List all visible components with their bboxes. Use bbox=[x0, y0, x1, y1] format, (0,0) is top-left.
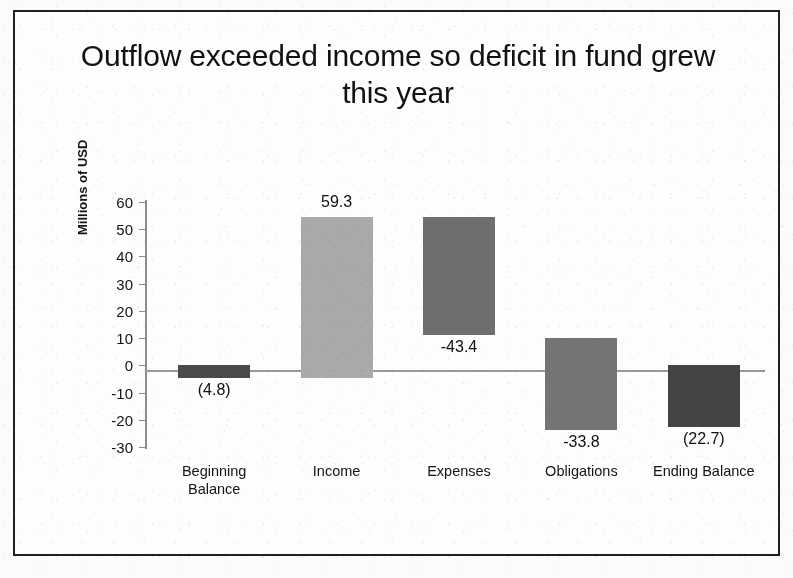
y-tick-label: -30 bbox=[91, 439, 133, 456]
y-tick-label: -10 bbox=[91, 384, 133, 401]
y-tick-label: 60 bbox=[91, 194, 133, 211]
y-tick-label: 20 bbox=[91, 302, 133, 319]
bar-value-label: (22.7) bbox=[683, 430, 725, 448]
y-tick-label: 50 bbox=[91, 221, 133, 238]
y-axis-line bbox=[145, 200, 147, 449]
y-tick-label: 10 bbox=[91, 330, 133, 347]
bar-value-label: -33.8 bbox=[563, 433, 599, 451]
y-tick-label: 30 bbox=[91, 275, 133, 292]
x-category-label: Ending Balance bbox=[626, 462, 782, 480]
bar-expenses[interactable] bbox=[423, 217, 495, 335]
bar-value-label: 59.3 bbox=[321, 193, 352, 211]
y-tick-label: 40 bbox=[91, 248, 133, 265]
chart-area: Outflow exceeded income so deficit in fu… bbox=[13, 10, 780, 556]
bar-obligations[interactable] bbox=[545, 338, 617, 430]
bar-value-label: -43.4 bbox=[441, 338, 477, 356]
bar-value-label: (4.8) bbox=[198, 381, 231, 399]
bar-beginning-balance[interactable] bbox=[178, 365, 250, 378]
bar-ending-balance[interactable] bbox=[668, 365, 740, 427]
bar-income[interactable] bbox=[301, 217, 373, 378]
y-tick-label: -20 bbox=[91, 411, 133, 428]
y-tick-label: 0 bbox=[91, 357, 133, 374]
